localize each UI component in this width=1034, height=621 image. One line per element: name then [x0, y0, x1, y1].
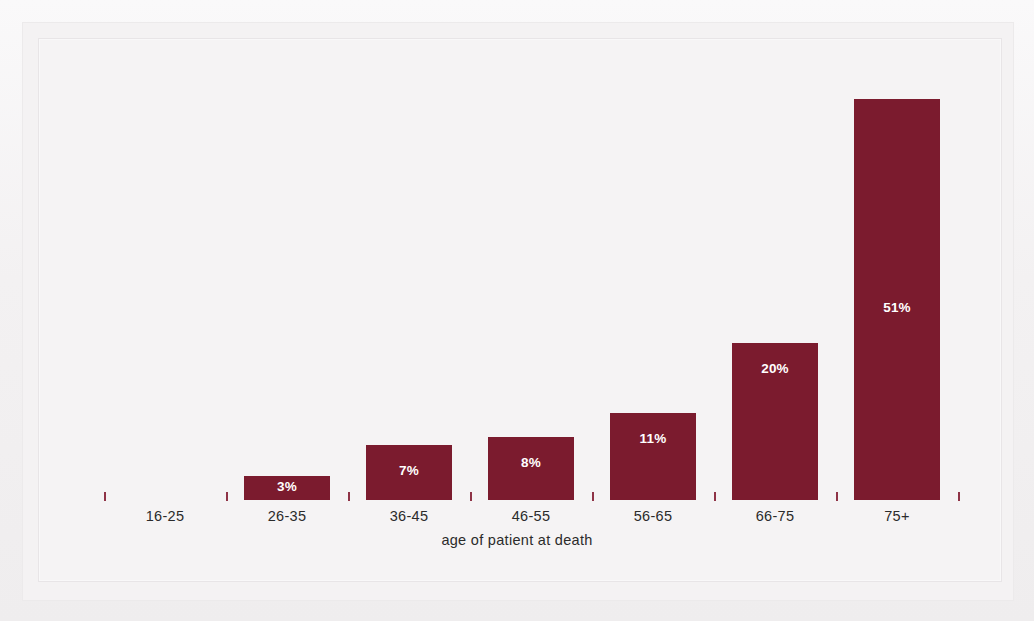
x-axis-category-label: 26-35 [226, 508, 348, 524]
x-axis-category-label: 36-45 [348, 508, 470, 524]
x-axis-tick [104, 492, 106, 501]
chart-page: 16-253%26-357%36-458%46-5511%56-6520%66-… [0, 0, 1034, 621]
x-axis-title: age of patient at death [0, 532, 1034, 548]
bar-value-label: 8% [488, 455, 574, 470]
x-axis-category-label: 56-65 [592, 508, 714, 524]
bar-value-label: 20% [732, 361, 818, 376]
bar-value-label: 51% [854, 300, 940, 315]
x-axis-tick [836, 492, 838, 501]
x-axis-tick [958, 492, 960, 501]
x-axis-tick [592, 492, 594, 501]
bar-value-label: 7% [366, 463, 452, 478]
x-axis-tick [226, 492, 228, 501]
x-axis-tick [714, 492, 716, 501]
x-axis-category-label: 66-75 [714, 508, 836, 524]
x-axis-tick [348, 492, 350, 501]
x-axis-tick [470, 492, 472, 501]
bar-value-label: 11% [610, 431, 696, 446]
x-axis-category-label: 46-55 [470, 508, 592, 524]
bar-chart-plot-area: 16-253%26-357%36-458%46-5511%56-6520%66-… [0, 0, 1034, 621]
x-axis-category-label: 75+ [836, 508, 958, 524]
x-axis-category-label: 16-25 [104, 508, 226, 524]
bar-value-label: 3% [244, 479, 330, 494]
bar[interactable] [610, 413, 696, 500]
